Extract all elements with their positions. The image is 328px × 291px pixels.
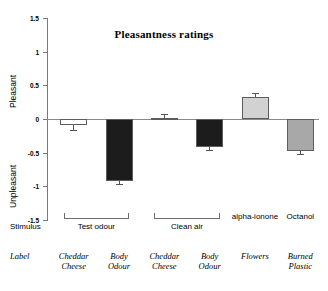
bar-slot [60,18,87,220]
stimulus-group-name: Octanol [250,212,328,221]
bar[interactable] [242,97,269,119]
y-axis-label-pleasant: Pleasant [8,75,18,108]
bar-slot [287,18,314,220]
y-tick: -1.5 [43,220,48,221]
error-bar-cap [70,130,77,131]
bar[interactable] [196,119,223,147]
error-bar-cap [161,114,168,115]
stimulus-group-name: Test odour [46,222,146,231]
bar[interactable] [151,118,178,120]
y-tick-label: 1 [35,48,39,55]
pleasantness-ratings-chart: Pleasantness ratings Pleasant Unpleasant… [0,0,328,291]
plot-area: 1.510.50-0.5-1-1.5 [47,18,319,220]
bar[interactable] [106,119,133,181]
y-tick-label: 1.5 [30,15,39,22]
y-axis-label-unpleasant: Unpleasant [8,165,18,208]
bar-series [47,18,319,220]
stimulus-row-key: Stimulus [10,222,41,231]
bar-slot [106,18,133,220]
error-bar-cap [206,150,213,151]
label-line: Odour [180,261,240,271]
bar-slot [242,18,269,220]
stimulus-group-name: Clean air [137,222,237,231]
bar[interactable] [287,119,314,151]
label-row-key: Label [10,251,29,261]
error-bar-cap [252,93,259,94]
label-line: Burned [270,251,328,261]
bar-slot [196,18,223,220]
y-tick-label: 0.5 [30,82,39,89]
y-tick-label: -0.5 [28,149,39,156]
label-cell: BurnedPlastic [270,251,328,271]
bar-slot [151,18,178,220]
stimulus-group-bracket [64,213,129,219]
y-tick-label: 0 [35,116,39,123]
label-line: Plastic [270,261,328,271]
y-tick-label: -1 [33,183,39,190]
error-bar-cap [116,184,123,185]
error-bar-cap [297,154,304,155]
